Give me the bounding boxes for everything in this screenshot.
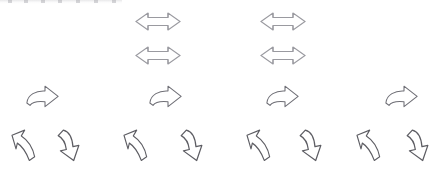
double-headed-horizontal-arrow-icon <box>259 10 307 33</box>
curved-down-arrow-icon <box>298 128 326 164</box>
curved-down-arrow-icon <box>405 128 433 164</box>
double-headed-horizontal-arrow-icon <box>134 44 182 67</box>
curved-up-left-arrow-icon <box>245 128 273 164</box>
curved-up-left-arrow-icon <box>355 128 383 164</box>
curved-right-arrow-icon <box>148 85 183 109</box>
curved-up-left-arrow-icon <box>122 128 150 164</box>
curved-right-arrow-icon <box>265 85 300 109</box>
curved-down-arrow-icon <box>56 128 84 164</box>
cropped-edge-artifact <box>0 0 122 4</box>
curved-up-left-arrow-icon <box>10 128 38 164</box>
curved-down-arrow-icon <box>179 128 207 164</box>
curved-right-arrow-icon <box>384 85 419 109</box>
arrow-diagram-canvas <box>0 0 439 172</box>
double-headed-horizontal-arrow-icon <box>259 44 307 67</box>
double-headed-horizontal-arrow-icon <box>134 10 182 33</box>
curved-right-arrow-icon <box>25 85 60 109</box>
